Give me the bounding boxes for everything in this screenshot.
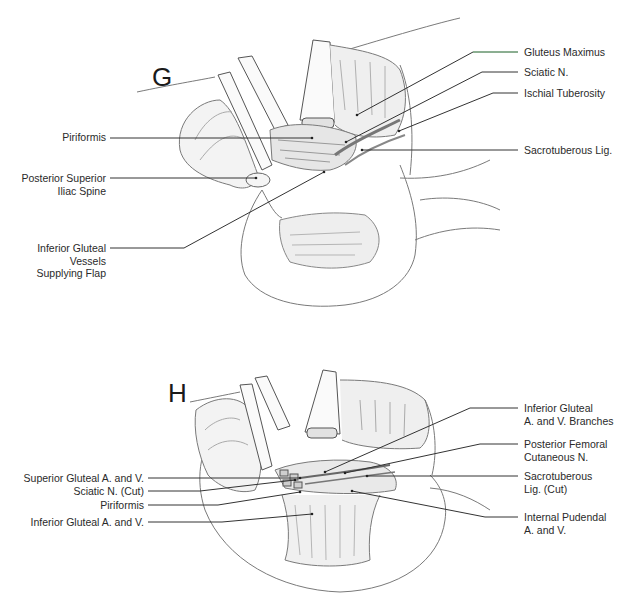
label-sacrotuberous-lig-cut: Sacrotuberous Lig. (Cut): [524, 470, 592, 495]
panel-g-drawing: [137, 18, 500, 306]
label-piriformis-h: Piriformis: [100, 499, 144, 512]
panel-label-h: H: [168, 380, 187, 406]
label-sciatic-nerve: Sciatic N.: [524, 66, 568, 79]
label-inferior-gluteal-a-v: Inferior Gluteal A. and V.: [31, 516, 144, 529]
label-inferior-gluteal-vessels: Inferior Gluteal Vessels Supplying Flap: [37, 242, 106, 280]
label-posterior-superior-iliac-spine: Posterior Superior Iliac Spine: [21, 172, 106, 197]
label-sacrotuberous-lig: Sacrotuberous Lig.: [524, 144, 612, 157]
label-ischial-tuberosity: Ischial Tuberosity: [524, 87, 605, 100]
label-superior-gluteal-a-v: Superior Gluteal A. and V.: [24, 472, 144, 485]
label-posterior-femoral-cutaneous-n: Posterior Femoral Cutaneous N.: [524, 438, 607, 463]
panel-label-g: G: [152, 64, 172, 90]
label-internal-pudendal-a-v: Internal Pudendal A. and V.: [524, 511, 606, 536]
label-piriformis: Piriformis: [62, 131, 106, 144]
label-inferior-gluteal-branches: Inferior Gluteal A. and V. Branches: [524, 402, 614, 427]
label-gluteus-maximus: Gluteus Maximus: [524, 46, 605, 59]
label-sciatic-n-cut: Sciatic N. (Cut): [73, 485, 144, 498]
panel-h-drawing: [190, 370, 490, 592]
